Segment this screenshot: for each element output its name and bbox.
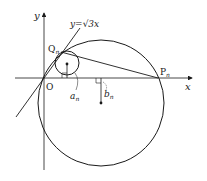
origin-label: O — [46, 82, 53, 92]
a-label: an — [70, 91, 79, 102]
y-axis-label: y — [33, 10, 40, 21]
point-P-label: Pn — [160, 67, 170, 78]
line-sqrt3x — [16, 28, 80, 117]
geometry-diagram: y x O y=√3x Qn Pn an bn — [0, 0, 207, 181]
b-label: bn — [104, 89, 114, 100]
a-pointer — [75, 73, 78, 90]
line-equation-label: y=√3x — [69, 19, 99, 29]
x-axis-label: x — [185, 81, 191, 92]
right-angle-marker-b — [96, 78, 101, 83]
point-Q-label: Qn — [48, 44, 59, 55]
